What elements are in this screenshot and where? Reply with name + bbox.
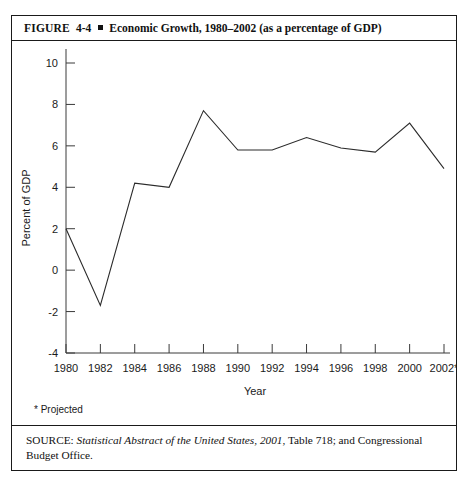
chart-plot-region: -4-2024681019801982198419861988199019921… — [12, 41, 456, 401]
x-tick-label: 1984 — [122, 362, 146, 374]
y-tick-label: 6 — [52, 140, 58, 152]
note-divider — [12, 425, 456, 426]
x-tick-label: 1990 — [226, 362, 250, 374]
source-label: SOURCE: — [26, 434, 74, 446]
y-tick-label: 10 — [46, 57, 58, 69]
x-tick-label: 1986 — [157, 362, 181, 374]
x-tick-label: 2000 — [397, 362, 421, 374]
y-tick-label: 0 — [52, 264, 58, 276]
y-axis-label: Percent of GDP — [20, 169, 32, 246]
x-tick-label: 1980 — [54, 362, 78, 374]
source-note: SOURCE: Statistical Abstract of the Unit… — [26, 433, 442, 464]
x-tick-label: 1992 — [260, 362, 284, 374]
y-tick-label: 8 — [52, 98, 58, 110]
figure-header: FIGURE 4-4 Economic Growth, 1980–2002 (a… — [12, 16, 456, 41]
x-tick-label: 2002* — [430, 362, 456, 374]
line-chart: -4-2024681019801982198419861988199019921… — [12, 41, 456, 401]
y-tick-label: -2 — [48, 306, 58, 318]
figure-box: FIGURE 4-4 Economic Growth, 1980–2002 (a… — [11, 15, 457, 471]
x-tick-label: 1994 — [294, 362, 318, 374]
figure-number: 4-4 — [76, 22, 91, 34]
x-axis-label: Year — [244, 385, 267, 397]
y-tick-label: 2 — [52, 223, 58, 235]
data-line-economic-growth — [66, 111, 444, 306]
x-tick-label: 1996 — [329, 362, 353, 374]
x-tick-label: 1988 — [191, 362, 215, 374]
projected-footnote: * Projected — [34, 404, 83, 415]
square-bullet-icon — [98, 25, 103, 30]
x-tick-label: 1982 — [88, 362, 112, 374]
y-tick-label: -4 — [48, 347, 58, 359]
source-title: Statistical Abstract of the United State… — [77, 434, 283, 446]
figure-label: FIGURE — [24, 22, 70, 34]
y-tick-label: 4 — [52, 181, 58, 193]
x-tick-label: 1998 — [363, 362, 387, 374]
figure-title: Economic Growth, 1980–2002 (as a percent… — [109, 22, 381, 34]
